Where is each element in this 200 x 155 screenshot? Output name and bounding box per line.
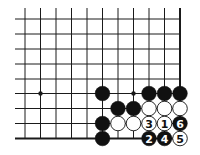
move-number: 3 — [145, 118, 153, 131]
stones: 316245 — [95, 86, 187, 146]
white-stone-5: 5 — [173, 131, 188, 146]
star-point — [131, 91, 135, 95]
black-stone — [95, 131, 110, 146]
white-stone-3: 3 — [142, 116, 157, 131]
move-number: 1 — [161, 118, 169, 131]
black-stone — [142, 86, 157, 101]
star-point — [38, 91, 42, 95]
white-stone-1: 1 — [157, 116, 172, 131]
go-board: 316245 — [0, 0, 200, 155]
move-number: 6 — [176, 118, 184, 131]
white-stone — [111, 116, 126, 131]
black-stone — [173, 86, 188, 101]
white-stone — [157, 101, 172, 116]
move-number: 5 — [176, 133, 184, 146]
black-stone — [111, 101, 126, 116]
move-number: 4 — [161, 133, 169, 146]
black-stone — [126, 101, 141, 116]
black-stone-6: 6 — [173, 116, 188, 131]
black-stone-4: 4 — [157, 131, 172, 146]
move-number: 2 — [145, 133, 153, 146]
black-stone — [95, 116, 110, 131]
white-stone — [126, 116, 141, 131]
white-stone — [173, 101, 188, 116]
black-stone — [157, 86, 172, 101]
black-stone — [95, 86, 110, 101]
white-stone — [142, 101, 157, 116]
black-stone-2: 2 — [142, 131, 157, 146]
